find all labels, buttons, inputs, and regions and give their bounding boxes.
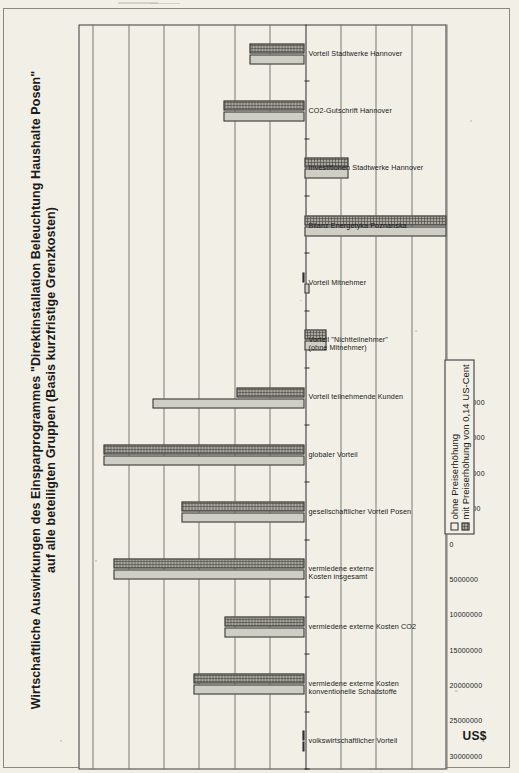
category-label: vermiedene externe Kosten insgesamt <box>309 564 374 580</box>
scan-speck <box>415 330 417 332</box>
category-label: Vorteil Mitnehmer <box>309 278 367 286</box>
chart: volkswirtschaftlicher Vorteilvermiedene … <box>17 24 447 769</box>
scanned-page: Wirtschaftliche Auswirkungen des Einspar… <box>0 0 519 773</box>
bar <box>236 387 305 397</box>
bar <box>103 455 305 465</box>
bar <box>302 741 305 751</box>
bar-group <box>79 311 447 368</box>
bar <box>224 627 305 637</box>
category-label: volkswirtschaftlicher Vorteil <box>309 736 398 744</box>
bar-group <box>79 425 447 482</box>
legend-item: mit Preiserhöhung von 0,14 US-Cent <box>460 364 471 530</box>
category-label: vermiedene externe Kosten konventionelle… <box>309 679 399 695</box>
bar <box>224 100 305 110</box>
bar <box>224 616 305 626</box>
category-label: Vorteil Stadtwerke Hannover <box>309 49 403 57</box>
value-tick-label: 0 <box>450 540 454 547</box>
value-tick-label: 30000000 <box>450 752 483 759</box>
bar <box>194 684 305 694</box>
bar <box>302 730 305 740</box>
bar <box>250 43 305 53</box>
category-label: Investitionen Stadtwerke Hannover <box>309 163 424 171</box>
bar <box>182 501 305 511</box>
scan-speck <box>95 560 97 562</box>
category-label: globaler Vorteil <box>309 450 358 458</box>
legend-item: ohne Preiserhöhung <box>449 364 460 530</box>
bar <box>182 512 305 522</box>
category-label: Vorteil teilnehmende Kunden <box>309 393 404 401</box>
plot-area: volkswirtschaftlicher Vorteilvermiedene … <box>79 24 447 769</box>
scan-speck <box>300 300 302 301</box>
bar-group <box>79 253 447 310</box>
category-label: CO2-Gutschrift Hannover <box>309 106 392 114</box>
legend-swatch <box>461 522 469 530</box>
bar <box>113 569 305 579</box>
category-label: Vorteil "Nichtteilnehmer" (ohne Mitnehme… <box>309 335 389 351</box>
bar <box>303 272 305 282</box>
bar <box>194 673 305 683</box>
value-tick-label: 10000000 <box>450 610 483 617</box>
bar <box>153 398 305 408</box>
value-axis-title: US$ <box>463 728 487 742</box>
scan-speck <box>470 120 472 122</box>
scan-speck <box>150 3 180 4</box>
legend: ohne Preiserhöhungmit Preiserhöhung von … <box>445 359 475 534</box>
value-tick-label: 20000000 <box>450 681 483 688</box>
value-tick-label: 5000000 <box>450 575 479 582</box>
scan-speck <box>60 740 62 742</box>
category-label: Bilanz Energetyka Poznanska <box>309 221 407 229</box>
category-label: vermiedene externe Kosten CO2 <box>309 622 417 630</box>
bar <box>250 54 305 64</box>
bar-group <box>79 540 447 597</box>
value-tick-label: 15000000 <box>450 646 483 653</box>
value-tick-label: 25000000 <box>450 716 483 723</box>
bar <box>224 111 305 121</box>
legend-label: ohne Preiserhöhung <box>449 433 460 519</box>
bar <box>103 444 305 454</box>
bar <box>113 558 305 568</box>
legend-swatch <box>450 522 458 530</box>
category-label: gesellschaftlicher Vorteil Posen <box>309 507 412 515</box>
scan-speck <box>455 690 458 692</box>
chart-rotation-wrapper: volkswirtschaftlicher Vorteilvermiedene … <box>0 0 519 773</box>
legend-label: mit Preiserhöhung von 0,14 US-Cent <box>460 364 471 519</box>
